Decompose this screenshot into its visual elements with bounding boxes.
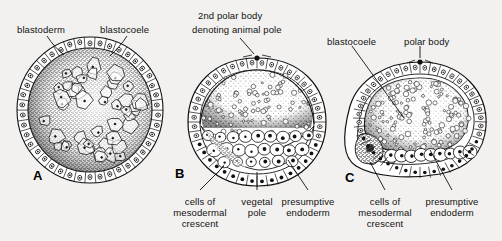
- polar-body-b: [254, 55, 259, 60]
- label-c-0: blastocoele: [327, 36, 376, 47]
- label-b-0: 2nd polar body: [198, 10, 262, 21]
- label-c-4: crescent: [367, 218, 404, 229]
- label-c-5: presumptive: [426, 196, 479, 207]
- label-b-8: endoderm: [286, 207, 330, 218]
- panel-letter-b: B: [175, 166, 184, 181]
- label-b-5: vegetal: [241, 196, 272, 207]
- label-b-2: cells of: [185, 196, 215, 207]
- label-a-1: blastocoele: [100, 24, 149, 35]
- panel-letter-a: A: [33, 168, 42, 183]
- label-c-3: mesodermal: [358, 207, 411, 218]
- label-b-6: pole: [248, 207, 266, 218]
- yolk-mass-a: [28, 48, 152, 172]
- panel-a-embryo: [17, 36, 163, 183]
- label-a-0: blastoderm: [17, 24, 65, 35]
- label-b-1: denoting animal pole: [192, 24, 282, 35]
- label-b-3: mesodermal: [173, 207, 226, 218]
- label-c-1: polar body: [404, 36, 449, 47]
- label-c-2: cells of: [370, 196, 400, 207]
- label-b-4: crescent: [182, 218, 219, 229]
- polar-body-c: [417, 59, 422, 64]
- panel-letter-c: C: [345, 170, 354, 185]
- label-c-6: endoderm: [430, 207, 474, 218]
- label-b-7: presumptive: [282, 196, 335, 207]
